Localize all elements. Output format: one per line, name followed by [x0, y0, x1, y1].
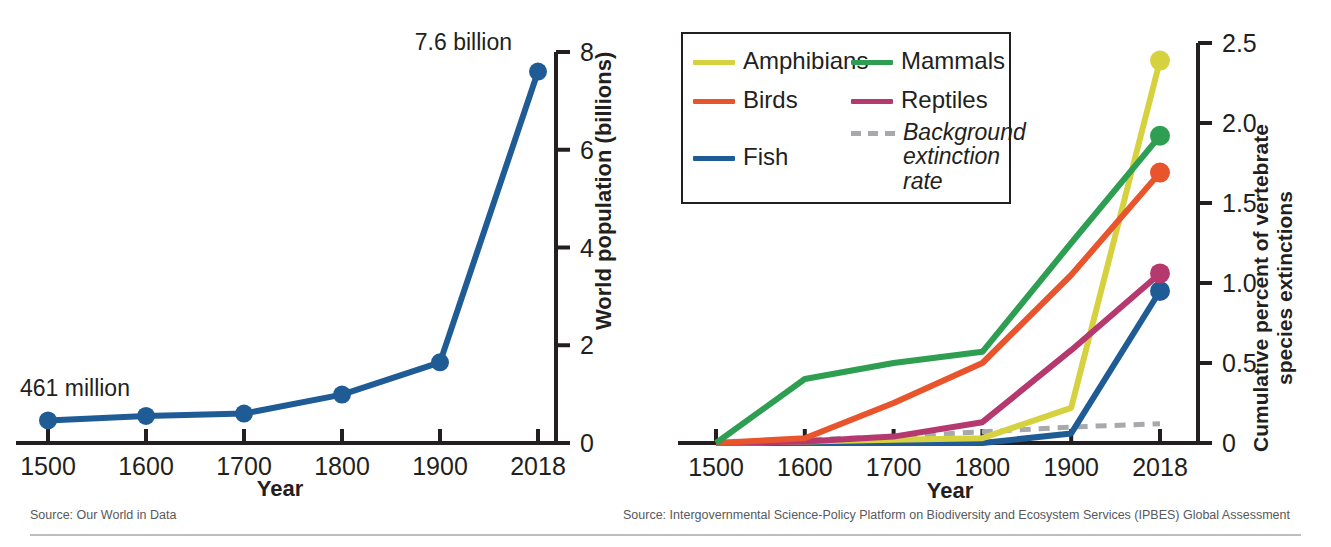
figure-container: 15001600170018001900201802468461 million…	[0, 0, 1331, 547]
right-y-axis-title-line1: Cumulative percent of vertebrate	[1249, 124, 1272, 452]
world-population-plot-area: 15001600170018001900201802468461 million…	[0, 0, 666, 547]
legend-swatch-icon	[851, 131, 895, 136]
legend-swatch-icon	[693, 60, 735, 65]
legend-label: Fish	[743, 145, 788, 169]
left-x-tick-label: 2018	[510, 452, 566, 480]
left-y-tick-label: 2	[580, 331, 594, 359]
population-data-point	[39, 411, 57, 429]
right-x-tick-label: 2018	[1132, 453, 1188, 481]
legend-label: Reptiles	[901, 88, 988, 112]
legend-label: Amphibians	[743, 49, 868, 73]
right-y-tick-label: 2.5	[1222, 29, 1257, 57]
left-x-axis-title: Year	[120, 476, 440, 502]
right-x-tick-label: 1900	[1043, 453, 1099, 481]
legend-label: Birds	[743, 88, 798, 112]
population-data-point	[529, 63, 547, 81]
legend-item-reptiles[interactable]: Reptiles	[851, 88, 1026, 112]
right-y-axis-title-line2: species extinctions	[1273, 191, 1296, 385]
left-y-tick-label: 0	[580, 429, 594, 457]
right-x-tick-label: 1700	[866, 453, 922, 481]
legend-swatch-icon	[851, 60, 893, 65]
population-data-point	[137, 407, 155, 425]
extinctions-legend: AmphibiansMammalsBirdsReptilesFishBackgr…	[681, 32, 1011, 204]
legend-item-background-extinction-rate[interactable]: Background extinction rate	[851, 120, 1026, 194]
endpoint-marker-amphibians	[1150, 51, 1170, 71]
population-data-point	[333, 386, 351, 404]
legend-item-amphibians[interactable]: Amphibians	[693, 49, 851, 73]
left-source-credit: Source: Our World in Data	[30, 508, 176, 522]
legend-label: Mammals	[901, 49, 1005, 73]
endpoint-marker-mammals	[1150, 126, 1170, 146]
legend-swatch-icon	[851, 99, 893, 104]
legend-label: Background extinction rate	[903, 120, 1026, 194]
legend-item-birds[interactable]: Birds	[693, 88, 851, 112]
right-y-axis-title: Cumulative percent of vertebrate species…	[1249, 124, 1296, 452]
world-population-chart-panel: 15001600170018001900201802468461 million…	[0, 0, 666, 547]
annotation-461-million: 461 million	[20, 375, 130, 401]
right-x-tick-label: 1600	[777, 453, 833, 481]
population-line	[48, 72, 538, 421]
left-x-tick-label: 1500	[20, 452, 76, 480]
right-x-tick-label: 1500	[688, 453, 744, 481]
annotation-76-billion: 7.6 billion	[415, 29, 512, 55]
footer-divider	[30, 534, 1301, 536]
legend-swatch-icon	[693, 99, 735, 104]
population-data-point	[235, 405, 253, 423]
endpoint-marker-fish	[1150, 281, 1170, 301]
world-population-svg: 15001600170018001900201802468461 million…	[0, 0, 666, 500]
endpoint-marker-birds	[1150, 163, 1170, 183]
left-y-axis-title: World population (billions)	[592, 52, 617, 330]
legend-item-mammals[interactable]: Mammals	[851, 49, 1026, 73]
right-source-credit: Source: Intergovernmental Science-Policy…	[623, 508, 1290, 522]
endpoint-marker-reptiles	[1150, 263, 1170, 283]
legend-swatch-icon	[693, 156, 735, 161]
legend-item-fish[interactable]: Fish	[693, 145, 851, 169]
right-x-axis-title: Year	[790, 478, 1110, 504]
right-x-tick-label: 1800	[955, 453, 1011, 481]
population-data-point	[431, 353, 449, 371]
legend-grid: AmphibiansMammalsBirdsReptilesFishBackgr…	[683, 34, 1009, 202]
right-y-tick-label: 0	[1222, 429, 1236, 457]
